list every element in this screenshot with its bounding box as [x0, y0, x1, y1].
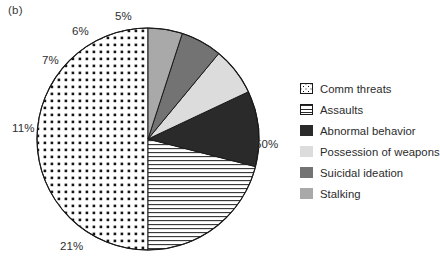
- legend-item-label: Suicidal ideation: [320, 167, 403, 179]
- legend-item-label: Stalking: [320, 188, 361, 200]
- legend-item[interactable]: Stalking: [300, 183, 436, 204]
- legend-item-label: Assaults: [320, 104, 363, 116]
- legend-item-label: Comm threats: [320, 83, 392, 95]
- chart-legend: Comm threatsAssaultsAbnormal behaviorPos…: [300, 78, 436, 204]
- pie-slice-label: 6%: [72, 25, 89, 37]
- horizontal-lines-icon: [300, 104, 313, 115]
- legend-item[interactable]: Possession of weapons: [300, 141, 436, 162]
- pie-slice-label: 21%: [60, 240, 83, 252]
- legend-item-label: Abnormal behavior: [320, 125, 416, 137]
- legend-item[interactable]: Assaults: [300, 99, 436, 120]
- solid-black-icon: [300, 125, 313, 136]
- solid-very-light-gray-icon: [300, 146, 313, 157]
- solid-medium-dark-gray-icon: [300, 167, 313, 178]
- solid-medium-gray-icon: [300, 188, 313, 199]
- dots-icon: [300, 83, 313, 94]
- pie-slice-label: 5%: [115, 10, 132, 22]
- legend-item[interactable]: Suicidal ideation: [300, 162, 436, 183]
- pie-slice-label: 50%: [255, 138, 278, 150]
- pie-slices: [37, 28, 259, 250]
- legend-item[interactable]: Abnormal behavior: [300, 120, 436, 141]
- pie-slice-label: 11%: [12, 122, 34, 134]
- legend-item[interactable]: Comm threats: [300, 78, 436, 99]
- legend-item-label: Possession of weapons: [320, 146, 440, 158]
- pie-slice-label: 7%: [42, 54, 59, 66]
